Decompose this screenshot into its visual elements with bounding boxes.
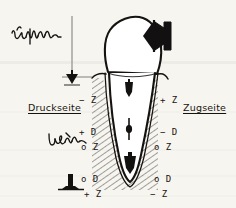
sign-group-lower-left: + Z − D [84, 168, 107, 208]
tooth-biomechanics-diagram: Druckseite Zugseite − Z + D + Z − D o Z … [0, 0, 236, 208]
label-druckseite: Druckseite [28, 103, 81, 113]
sign-middle-left-z: o Z [81, 142, 104, 153]
sign-group-lower-right: − Z + D [150, 168, 173, 208]
handwriting-top-left [12, 27, 61, 44]
label-zugseite: Zugseite [183, 103, 226, 113]
sign-lower-right-z: − Z [150, 189, 173, 200]
sign-upper-right-z: + Z [160, 95, 183, 106]
sign-middle-right-z: o Z [154, 142, 177, 153]
sign-lower-left-z: + Z [84, 189, 107, 200]
sign-upper-left-z: − Z [79, 95, 102, 106]
